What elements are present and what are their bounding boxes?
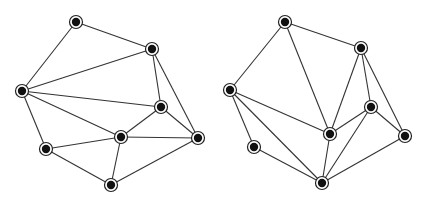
node-a [279,16,292,29]
node-F [192,132,205,145]
edge-H-F [111,138,198,185]
edge-a-c [230,22,285,90]
edge-D-E [121,107,161,137]
edge-E-G [46,137,121,149]
edge-A-C [22,22,76,91]
edge-c-h [230,90,322,183]
node-f [399,130,412,143]
edge-C-G [22,91,46,149]
node-A [70,16,83,29]
node-B [146,43,159,56]
edge-D-F [161,107,198,138]
node-D [155,101,168,114]
edge-A-B [76,22,152,49]
node-H [105,179,118,192]
node-g [248,141,261,154]
graph-diagram [0,0,427,205]
edge-d-h [322,107,371,183]
node-d [365,101,378,114]
node-G [40,143,53,156]
right-graph [224,16,412,190]
node-c [224,84,237,97]
node-h [316,177,329,190]
edge-d-e [330,107,371,134]
edge-C-E [22,91,121,137]
node-E [115,131,128,144]
edge-b-e [330,48,361,134]
edge-g-h [254,147,322,183]
edge-h-f [322,136,405,183]
edge-B-C [22,49,152,91]
edge-b-f [361,48,405,136]
left-graph [16,16,205,192]
edge-G-H [46,149,111,185]
edge-E-H [111,137,121,185]
edge-a-b [285,22,361,48]
node-e [324,128,337,141]
edge-E-F [121,137,198,138]
edge-e-h [322,134,330,183]
node-b [355,42,368,55]
node-C [16,85,29,98]
edge-C-D [22,91,161,107]
